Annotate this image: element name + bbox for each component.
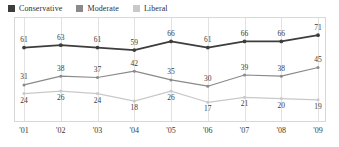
x-axis-tick-05: '05 — [166, 126, 175, 136]
legend-item-moderate: Moderate — [76, 4, 118, 13]
data-point — [132, 48, 136, 52]
data-point — [133, 70, 136, 73]
x-axis-tick-labels: '01'02'03'04'05'06'07'08'09 — [14, 126, 326, 140]
data-label: 61 — [94, 35, 102, 44]
chart-root: ConservativeModerateLiberal 242624182617… — [0, 0, 339, 147]
legend-item-conservative: Conservative — [8, 4, 62, 13]
data-point — [206, 85, 209, 88]
x-axis-tick-06: '06 — [203, 126, 212, 136]
x-axis-tick-07: '07 — [240, 126, 249, 136]
data-point — [59, 75, 62, 78]
data-label: 24 — [94, 96, 102, 105]
data-label: 18 — [131, 103, 139, 112]
data-label: 63 — [57, 33, 65, 42]
data-point — [279, 40, 283, 44]
data-point — [96, 46, 100, 50]
data-label: 26 — [167, 93, 175, 102]
data-point — [280, 75, 283, 78]
legend-swatch-icon — [8, 5, 15, 12]
data-label: 59 — [131, 38, 139, 47]
data-point — [170, 78, 173, 81]
x-axis-tick-09: '09 — [313, 126, 322, 136]
data-label: 38 — [278, 64, 286, 73]
data-label: 20 — [278, 101, 286, 110]
data-point — [23, 83, 26, 86]
data-point — [206, 46, 210, 50]
data-point — [96, 76, 99, 79]
legend-item-label: Conservative — [19, 4, 62, 13]
data-label: 37 — [94, 65, 102, 74]
data-label: 42 — [131, 59, 139, 68]
data-point — [243, 40, 247, 44]
data-point — [317, 66, 320, 69]
data-point — [22, 46, 26, 50]
data-label: 38 — [57, 64, 65, 73]
data-label: 45 — [314, 55, 322, 64]
data-point — [316, 33, 320, 37]
legend-swatch-icon — [133, 5, 140, 12]
x-axis-tick-04: '04 — [130, 126, 139, 136]
data-label: 17 — [204, 104, 212, 113]
chart-legend: ConservativeModerateLiberal — [8, 2, 168, 15]
plot-area: 2426241826172120193138374235303938456163… — [14, 17, 326, 122]
legend-item-label: Moderate — [87, 4, 118, 13]
data-point — [59, 43, 63, 47]
legend-item-label: Liberal — [144, 4, 168, 13]
data-label: 35 — [167, 67, 175, 76]
data-label: 26 — [57, 93, 65, 102]
legend-swatch-icon — [76, 5, 83, 12]
data-label: 61 — [20, 35, 28, 44]
line-chart-svg: 2426241826172120193138374235303938456163… — [14, 17, 326, 122]
data-label: 21 — [241, 99, 249, 108]
x-axis-tick-01: '01 — [19, 126, 28, 136]
data-label: 66 — [278, 29, 286, 38]
data-label: 39 — [241, 63, 249, 72]
data-label: 66 — [167, 29, 175, 38]
data-label: 71 — [314, 23, 322, 32]
x-axis-tick-03: '03 — [93, 126, 102, 136]
data-point — [169, 40, 173, 44]
data-label: 19 — [314, 102, 322, 111]
x-axis-tick-08: '08 — [277, 126, 286, 136]
legend-item-liberal: Liberal — [133, 4, 168, 13]
data-label: 30 — [204, 74, 212, 83]
data-label: 66 — [241, 29, 249, 38]
data-label: 61 — [204, 35, 212, 44]
data-point — [243, 74, 246, 77]
data-label: 24 — [20, 96, 28, 105]
data-label: 31 — [20, 72, 28, 81]
x-axis-tick-02: '02 — [56, 126, 65, 136]
